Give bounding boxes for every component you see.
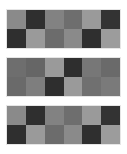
gray-swatch-cell <box>26 29 45 48</box>
gray-swatch-cell <box>82 29 101 48</box>
gray-swatch-grid-1 <box>7 10 120 48</box>
gray-swatch-cell <box>82 10 101 29</box>
gray-swatch-cell <box>26 77 45 96</box>
gray-swatch-cell <box>7 77 26 96</box>
gray-swatch-cell <box>101 29 120 48</box>
gray-swatch-cell <box>7 106 26 125</box>
gray-swatch-grid-3 <box>7 106 120 144</box>
gray-swatch-cell <box>26 58 45 77</box>
gray-swatch-cell <box>45 77 64 96</box>
gray-swatch-cell <box>64 77 83 96</box>
gray-swatch-cell <box>45 58 64 77</box>
gray-swatch-cell <box>101 106 120 125</box>
gray-swatch-cell <box>45 106 64 125</box>
gray-swatch-cell <box>26 106 45 125</box>
gray-swatch-cell <box>26 125 45 144</box>
gray-swatch-cell <box>45 10 64 29</box>
gray-swatch-cell <box>82 125 101 144</box>
gray-swatch-cell <box>82 58 101 77</box>
gray-swatch-cell <box>101 77 120 96</box>
gray-swatch-cell <box>45 125 64 144</box>
gray-swatch-cell <box>7 10 26 29</box>
gray-swatch-cell <box>7 125 26 144</box>
gray-swatch-cell <box>7 29 26 48</box>
gray-swatch-cell <box>26 10 45 29</box>
gray-swatch-grid-2 <box>7 58 120 96</box>
gray-swatch-cell <box>64 10 83 29</box>
gray-swatch-cell <box>64 58 83 77</box>
gray-swatch-cell <box>101 125 120 144</box>
gray-swatch-cell <box>45 29 64 48</box>
gray-swatch-cell <box>64 29 83 48</box>
gray-swatch-cell <box>64 106 83 125</box>
gray-swatch-cell <box>101 58 120 77</box>
gray-swatch-cell <box>82 77 101 96</box>
gray-swatch-cell <box>82 106 101 125</box>
gray-swatch-cell <box>101 10 120 29</box>
gray-swatch-cell <box>7 58 26 77</box>
gray-swatch-cell <box>64 125 83 144</box>
